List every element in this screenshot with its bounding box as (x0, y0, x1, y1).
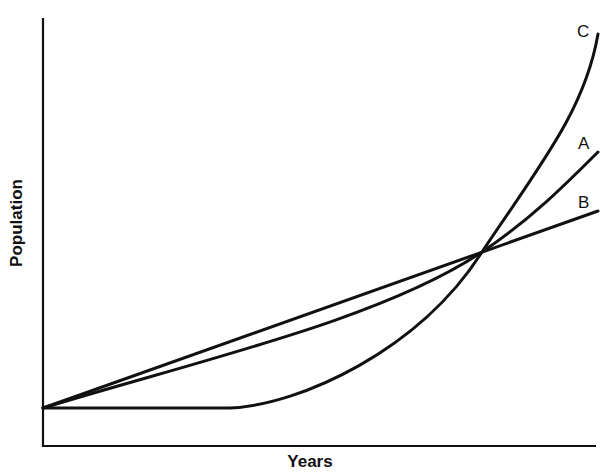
curve-label-a: A (578, 134, 589, 154)
curve-a (43, 152, 598, 408)
curve-b (43, 211, 598, 408)
population-growth-chart (0, 0, 606, 474)
y-axis-label: Population (2, 148, 32, 298)
y-axis-label-text: Population (7, 179, 27, 267)
curve-label-b: B (578, 193, 589, 213)
curve-c (43, 34, 598, 408)
curve-label-c: C (577, 22, 589, 42)
x-axis-label: Years (270, 452, 350, 472)
